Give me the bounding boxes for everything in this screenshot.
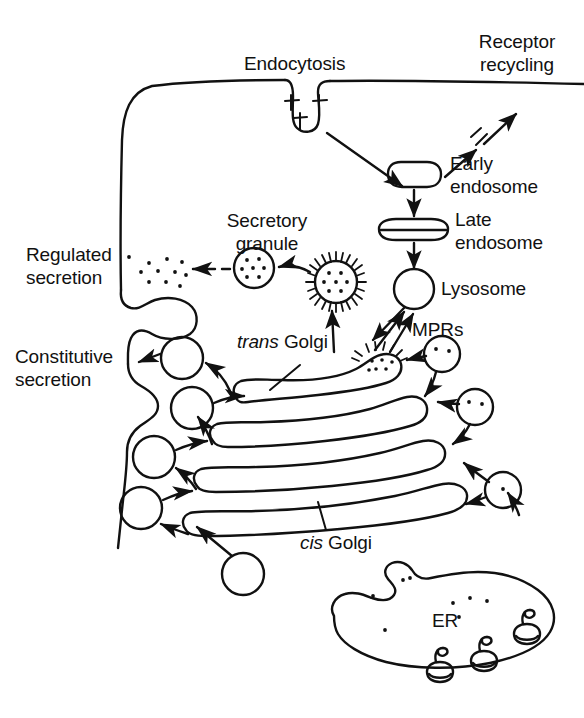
label-secretory-granule-line1: Secretory [192, 209, 342, 232]
arrow-vesicle5-to-cisgolgi [197, 527, 232, 556]
lysosome [394, 269, 434, 309]
label-early-endosome-line2: endosome [450, 175, 538, 198]
mpr-vesicles [424, 336, 521, 508]
label-cis-golgi-italic: cis [300, 532, 323, 553]
vesicle-empty-4 [120, 487, 162, 529]
arrow-vesicle4-to-cisterna3 [163, 491, 192, 500]
coated-pit-receptors [285, 95, 327, 130]
mpr-vesicle-cargo [434, 347, 505, 491]
ribosome-2 [471, 637, 497, 671]
label-cis-golgi-rest: Golgi [323, 532, 372, 553]
arrow-mpr3-to-cisterna3 [464, 463, 489, 482]
arrow-mpr1-to-cisterna2 [425, 372, 436, 396]
arrow-er-to-mpr3 [508, 493, 519, 515]
label-cis-golgi: cis Golgi [300, 531, 372, 554]
label-mprs: MPRs [412, 318, 463, 341]
arrow-golgi-to-vesicle1 [206, 363, 230, 391]
vesicle-empty-3 [133, 436, 175, 478]
label-trans-golgi-rest: Golgi [279, 331, 328, 352]
er-lumen-dots [371, 576, 489, 632]
label-lysosome: Lysosome [441, 277, 526, 300]
trans-golgi-cisterna [234, 354, 402, 402]
mpr-vesicle-1 [424, 336, 460, 372]
label-endocytosis: Endocytosis [244, 52, 345, 75]
label-trans-golgi: trans Golgi [237, 330, 328, 353]
vesicle-empty-5 [222, 553, 264, 595]
arrow-vesicle1-to-membrane [139, 354, 160, 362]
label-constitutive-secretion-line2: secretion [15, 368, 91, 391]
arrow-mpr2-to-cisterna2 [438, 402, 459, 404]
ribosome-1 [427, 648, 453, 682]
vesicle-empty-1 [161, 337, 203, 379]
cell-pathway-diagram: Endocytosis Receptor recycling Early end… [0, 0, 584, 718]
arrow-trans-golgi-to-lysosome [375, 312, 404, 350]
label-regulated-secretion-line2: secretion [26, 266, 102, 289]
label-regulated-secretion-line1: Regulated [26, 243, 112, 266]
arrow-mpr1-to-trans-golgi [407, 356, 426, 360]
arrow-mpr2-to-cisterna3 [453, 424, 470, 444]
released-cargo-dots [127, 255, 188, 288]
label-er: ER [432, 609, 458, 632]
golgi-cisterna-2 [210, 397, 427, 447]
label-early-endosome-line1: Early [450, 152, 493, 175]
arrow-mpr3-to-cisgolgi [466, 497, 486, 504]
label-secretory-granule-line2: granule [192, 232, 342, 255]
early-endosome [388, 162, 441, 187]
label-late-endosome-line2: endosome [455, 231, 543, 254]
arrow-golgi-to-coated-vesicle [332, 311, 334, 352]
label-receptor-recycling-line2: recycling [452, 53, 582, 76]
arrow-recycling-to-plasma-membrane [484, 114, 516, 144]
mpr-vesicle-2 [457, 389, 493, 425]
label-late-endosome-line1: Late [455, 208, 492, 231]
secretory-granule-cargo [240, 257, 266, 279]
arrow-coated-vesicle-to-granule [279, 266, 310, 272]
label-trans-golgi-italic: trans [237, 331, 279, 352]
label-constitutive-secretion-line1: Constitutive [15, 345, 113, 368]
coated-vesicle-cargo [322, 271, 349, 293]
trans-golgi-bud-cargo [367, 358, 394, 372]
transport-vesicles-empty [120, 337, 264, 595]
ribosome-3 [514, 610, 540, 644]
label-receptor-recycling-line1: Receptor [452, 30, 582, 53]
arrow-vesicle3-to-cisterna2 [176, 441, 207, 450]
golgi-cisterna-3 [194, 441, 445, 492]
vesicle-empty-2 [171, 387, 213, 429]
leader-trans-golgi [270, 365, 300, 390]
arrow-endocytosis-to-early-endosome [327, 133, 402, 186]
